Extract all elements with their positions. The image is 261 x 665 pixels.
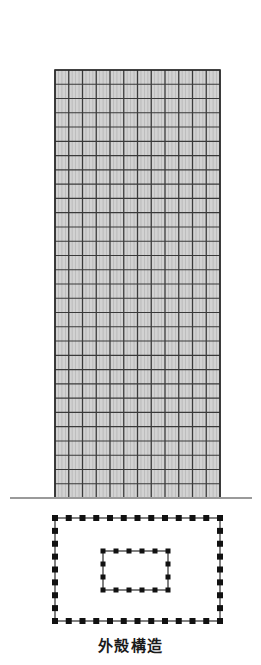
plan-outer-column	[148, 618, 154, 624]
plan-inner-column	[166, 549, 171, 554]
building-elevation	[55, 70, 220, 498]
diagram-canvas	[0, 0, 261, 665]
plan-outer-ring	[52, 515, 223, 624]
plan-outer-column	[80, 618, 86, 624]
plan-outer-column	[107, 515, 113, 521]
figure-caption: 外殻構造	[0, 634, 261, 655]
plan-outer-column	[217, 541, 223, 547]
plan-outer-column	[93, 618, 99, 624]
plan-outer-column	[107, 618, 113, 624]
plan-outer-column	[52, 528, 58, 534]
plan-outer-column	[52, 592, 58, 598]
plan-outer-column	[52, 515, 58, 521]
plan-outer-column	[135, 618, 141, 624]
plan-inner-column	[101, 575, 106, 580]
plan-outer-column	[52, 554, 58, 560]
plan-outer-column	[66, 515, 72, 521]
plan-inner-column	[127, 549, 132, 554]
plan-outer-column	[121, 515, 127, 521]
plan-outer-column	[217, 605, 223, 611]
plan-inner-column	[101, 588, 106, 593]
plan-outer-column	[217, 528, 223, 534]
plan-inner-column	[166, 562, 171, 567]
plan-outer-rect	[55, 518, 220, 621]
plan-outer-column	[176, 515, 182, 521]
plan-outer-column	[190, 618, 196, 624]
plan-inner-column	[101, 549, 106, 554]
outer-shell-structure-figure: 外殻構造	[0, 0, 261, 665]
plan-inner-core	[101, 549, 171, 593]
plan-inner-column	[114, 549, 119, 554]
plan-outer-column	[203, 515, 209, 521]
plan-inner-column	[166, 588, 171, 593]
plan-inner-column	[114, 588, 119, 593]
plan-outer-column	[217, 618, 223, 624]
plan-outer-column	[121, 618, 127, 624]
plan-inner-column	[153, 549, 158, 554]
plan-outer-column	[217, 579, 223, 585]
plan-outer-column	[176, 618, 182, 624]
plan-outer-column	[217, 567, 223, 573]
plan-inner-column	[166, 575, 171, 580]
plan-outer-column	[80, 515, 86, 521]
plan-outer-column	[93, 515, 99, 521]
plan-outer-column	[66, 618, 72, 624]
plan-outer-column	[52, 567, 58, 573]
plan-outer-column	[190, 515, 196, 521]
plan-inner-column	[140, 588, 145, 593]
plan-outer-column	[203, 618, 209, 624]
plan-outer-column	[217, 554, 223, 560]
plan-outer-column	[162, 515, 168, 521]
plan-inner-column	[153, 588, 158, 593]
plan-outer-column	[52, 579, 58, 585]
plan-inner-column	[127, 588, 132, 593]
plan-outer-column	[52, 541, 58, 547]
plan-inner-column	[101, 562, 106, 567]
plan-outer-column	[52, 618, 58, 624]
plan-inner-rect	[103, 551, 168, 590]
plan-inner-column	[140, 549, 145, 554]
plan-outer-column	[217, 592, 223, 598]
plan-outer-column	[217, 515, 223, 521]
plan-outer-column	[52, 605, 58, 611]
plan-outer-column	[135, 515, 141, 521]
plan-outer-column	[162, 618, 168, 624]
plan-outer-column	[148, 515, 154, 521]
